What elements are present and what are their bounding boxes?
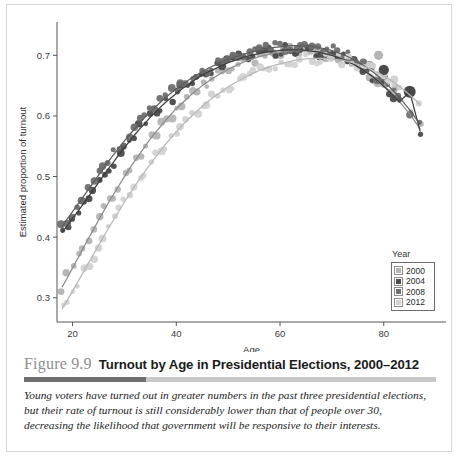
legend-item-label: 2000 (406, 266, 425, 276)
svg-text:20: 20 (67, 328, 78, 339)
fit-line-layer (62, 46, 420, 309)
figure-number: Figure 9.9 (24, 355, 92, 373)
svg-text:0.7: 0.7 (37, 50, 50, 61)
svg-text:Estimated proportion of turnou: Estimated proportion of turnout (17, 106, 28, 237)
caption-rule (24, 377, 436, 382)
legend-item-label: 2008 (406, 287, 425, 297)
series-points-2004 (60, 42, 423, 233)
svg-text:0.6: 0.6 (37, 110, 50, 121)
svg-text:Age: Age (243, 344, 260, 352)
chart-plot-area: 0.30.40.50.60.720406080AgeEstimated prop… (0, 0, 458, 352)
fit-line-2012 (62, 58, 420, 308)
figure-title: Turnout by Age in Presidential Elections… (99, 357, 419, 372)
legend-swatch-icon (394, 277, 403, 286)
legend-item-2004[interactable]: 2004 (394, 276, 431, 286)
svg-text:80: 80 (378, 328, 389, 339)
legend-item-2008[interactable]: 2008 (394, 287, 431, 297)
figure-caption-text: Young voters have turned out in greater … (24, 388, 430, 434)
fit-line-2000 (62, 50, 420, 286)
legend-swatch-icon (394, 287, 403, 296)
legend-item-2012[interactable]: 2012 (394, 297, 431, 307)
svg-text:0.5: 0.5 (37, 171, 50, 182)
legend-swatch-icon (394, 266, 403, 275)
legend-swatch-icon (394, 298, 403, 307)
svg-text:0.3: 0.3 (37, 292, 50, 303)
legend-item-label: 2004 (406, 276, 425, 286)
svg-text:0.4: 0.4 (37, 232, 50, 243)
series-points-2012 (61, 52, 422, 308)
legend-item-2000[interactable]: 2000 (394, 266, 431, 276)
legend-title: Year (392, 249, 410, 259)
legend-item-label: 2012 (406, 297, 425, 307)
svg-text:40: 40 (171, 328, 182, 339)
figure-container: 0.30.40.50.60.720406080AgeEstimated prop… (0, 0, 458, 457)
svg-text:60: 60 (275, 328, 286, 339)
chart-svg: 0.30.40.50.60.720406080AgeEstimated prop… (0, 0, 458, 352)
chart-legend[interactable]: 2000 2004 2008 2012 (391, 262, 435, 311)
caption-heading: Figure 9.9 Turnout by Age in Presidentia… (24, 355, 436, 373)
figure-caption-block: Figure 9.9 Turnout by Age in Presidentia… (24, 355, 436, 434)
